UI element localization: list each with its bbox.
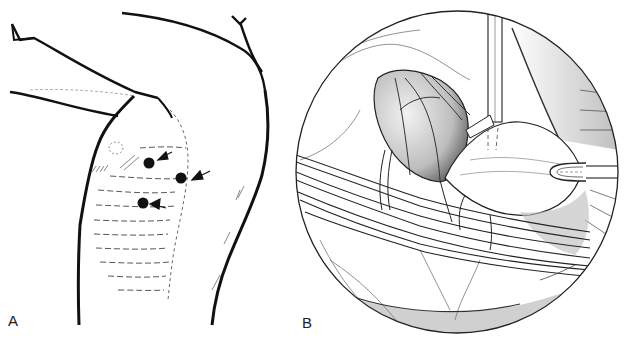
port-site-marker-2 (176, 173, 187, 184)
grasper-instrument (550, 163, 625, 181)
thoracoscopic-view-drawing (290, 0, 626, 340)
lateral-torso-drawing (0, 0, 300, 340)
port-site-marker-1 (144, 158, 155, 169)
port-site-marker-3 (138, 198, 149, 209)
panel-a: A (0, 0, 300, 340)
panel-b: B (290, 0, 626, 340)
panel-label-b: B (302, 314, 312, 331)
medical-illustration-figure: A (0, 0, 626, 340)
panel-label-a: A (8, 312, 18, 329)
